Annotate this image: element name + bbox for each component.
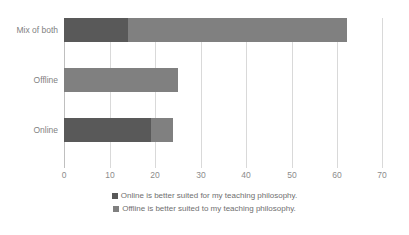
chart-legend: Online is better suited for my teaching …	[0, 192, 409, 213]
bar-segment-offline-online	[151, 118, 174, 142]
x-tick-30: 30	[196, 170, 205, 180]
legend-label-offline: Offline is better suited to my teaching …	[122, 205, 296, 213]
x-tick-60: 60	[332, 170, 341, 180]
y-axis-label-mix-of-both: Mix of both	[16, 18, 58, 42]
bar-row-online	[64, 118, 383, 142]
x-tick-20: 20	[150, 170, 159, 180]
y-axis-category-labels: Mix of both Offline Online	[0, 18, 58, 168]
x-tick-40: 40	[241, 170, 250, 180]
bar-series-group	[64, 18, 383, 168]
x-tick-10: 10	[105, 170, 114, 180]
legend-swatch-online-icon	[112, 193, 118, 199]
y-axis-label-offline: Offline	[34, 68, 58, 92]
legend-label-online: Online is better suited for my teaching …	[121, 192, 297, 200]
legend-item-offline[interactable]: Offline is better suited to my teaching …	[113, 205, 296, 213]
bar-segment-online-online	[64, 118, 151, 142]
x-tick-70: 70	[377, 170, 386, 180]
bar-row-mix-of-both	[64, 18, 383, 42]
legend-item-online[interactable]: Online is better suited for my teaching …	[112, 192, 297, 200]
bar-segment-offline-mix-of-both	[128, 18, 347, 42]
bar-chart: Mix of both Offline Online	[0, 0, 409, 235]
plot-area	[64, 18, 383, 168]
x-tick-50: 50	[287, 170, 296, 180]
legend-swatch-offline-icon	[113, 206, 119, 212]
bar-row-offline	[64, 68, 383, 92]
x-tick-0: 0	[62, 170, 67, 180]
x-axis-tick-labels: 0 10 20 30 40 50 60 70	[64, 170, 383, 184]
y-axis-label-online: Online	[33, 118, 58, 142]
bar-segment-offline-offline	[64, 68, 178, 92]
bar-segment-online-mix-of-both	[64, 18, 128, 42]
